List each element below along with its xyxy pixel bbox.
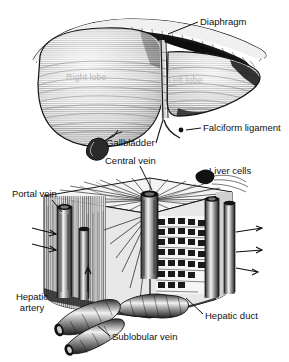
label-hepatic-artery-line2: artery (20, 302, 44, 313)
hepatic-artery-structure (79, 227, 91, 300)
label-liver-cells: Liver cells (209, 166, 251, 177)
label-diaphragm: Diaphragm (200, 17, 246, 28)
label-falciform-ligament: Falciform ligament (203, 123, 281, 134)
label-gallbladder: Gallbladder (106, 138, 155, 149)
label-hepatic-duct: Hepatic duct (205, 311, 258, 322)
label-central-vein: Central vein (105, 156, 156, 167)
central-vein-structure (141, 191, 158, 279)
label-right-lobe: Right lobe (66, 72, 107, 82)
label-left-lobe: Left lobe (168, 75, 203, 85)
label-hepatic-artery-line1: Hepatic (16, 291, 48, 302)
label-sublobular-vein: Sublobular vein (112, 332, 178, 343)
label-portal-vein: Portal vein (12, 189, 57, 200)
liver-anatomy-figure: Diaphragm Falciform ligament Gallbladder… (0, 0, 289, 362)
label-hepatic-artery: Hepatic artery (6, 291, 58, 313)
